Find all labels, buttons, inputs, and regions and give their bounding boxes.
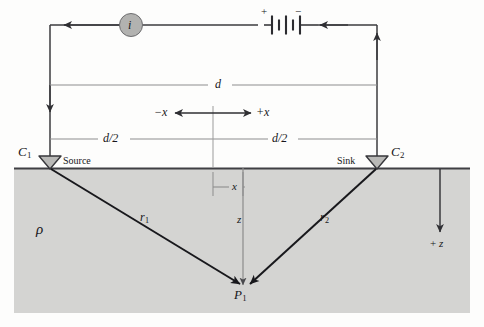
axis-label-z: z [237,214,241,225]
ray-label-r2-subscript: 2 [325,216,329,225]
axis-label-positive-x: +x [256,106,269,118]
electrode-label-c2-subscript: 2 [400,150,405,160]
electrode-label-c1-subscript: 1 [27,150,32,160]
ray-label-r1-letter: r [140,210,145,224]
ray-label-r2-letter: r [320,210,325,224]
axis-label-negative-x: −x [154,106,167,118]
ray-label-r2: r2 [320,211,329,225]
point-label-p1-subscript: 1 [242,293,247,303]
axis-label-positive-z: + z [430,238,443,249]
ray-label-r1-subscript: 1 [145,216,149,225]
electrode-triangle-icon-c1 [39,156,61,169]
dimension-label-x-offset: x [232,181,237,192]
dimension-label-dhalf-right: d/2 [272,132,287,144]
dimension-label-d: d [215,78,221,90]
current-source-label: i [128,19,131,31]
electrode-label-c1: C1 [18,145,31,160]
electrode-label-c2: C2 [391,145,404,160]
electrode-triangle-icon-c2 [366,156,388,169]
battery-positive-label: + [261,6,267,17]
electrode-role-label-sink: Sink [337,156,355,166]
axis-label-positive-z-letter: z [439,237,443,249]
battery-negative-label: − [295,6,301,17]
electrode-label-c2-letter: C [391,144,400,159]
point-label-p1-letter: P [234,287,242,302]
ray-label-r1: r1 [140,211,149,225]
battery-cell-icon [264,16,318,35]
resistivity-rho-label: ρ [36,222,43,237]
resistivity-survey-diagram: i + − d d/2 d/2 −x +x C1 Source Sink C2 … [0,0,484,327]
electrode-role-label-source: Source [63,156,91,166]
electrode-label-c1-letter: C [18,144,27,159]
point-label-p1: P1 [234,288,247,303]
dimension-label-dhalf-left: d/2 [103,132,118,144]
